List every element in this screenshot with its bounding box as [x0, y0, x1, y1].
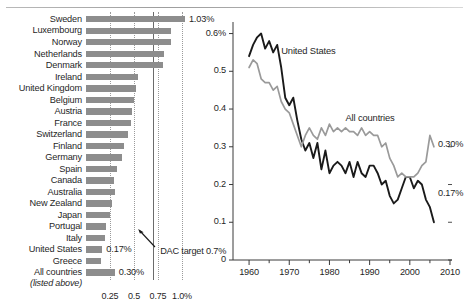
- bar-row-label: Belgium: [0, 96, 86, 106]
- bar-row-track: [86, 118, 200, 130]
- bar-row: Switzerland: [0, 129, 200, 141]
- bar-row-track: [86, 49, 200, 61]
- bar-fill: [86, 258, 101, 264]
- bar-fill: [86, 189, 115, 195]
- bar-fill: [86, 235, 105, 241]
- bar-value-label: 0.17%: [106, 245, 131, 255]
- end-value-united-states: 0.17%: [438, 189, 463, 199]
- line-chart-y-tick-label: 0.2: [200, 180, 226, 190]
- bar-row-label: Greece: [0, 257, 86, 267]
- bar-fill: [86, 85, 136, 91]
- line-series-all-countries: [249, 60, 434, 177]
- bar-row: Greece: [0, 256, 200, 268]
- series-label-united-states: United States: [281, 46, 335, 56]
- bar-row-track: [86, 164, 200, 176]
- bar-fill: [86, 223, 106, 229]
- bar-row-label: France: [0, 119, 86, 129]
- bar-row: Belgium: [0, 95, 200, 107]
- bar-row-track: [86, 37, 200, 49]
- bar-fill: [86, 269, 115, 275]
- bar-row-label: Germany: [0, 153, 86, 163]
- bar-row-track: [86, 256, 200, 268]
- bar-row-label: Norway: [0, 38, 86, 48]
- bar-fill: [86, 51, 164, 57]
- bar-row-label: Finland: [0, 142, 86, 152]
- bar-row-label: Switzerland: [0, 130, 86, 140]
- bar-row-label: Australia: [0, 188, 86, 198]
- series-label-all-countries: All countries: [346, 113, 395, 123]
- bar-row-track: [86, 60, 200, 72]
- line-chart-panel: United States All countries 0.30% 0.17% …: [200, 8, 469, 293]
- bar-row: Norway: [0, 37, 200, 49]
- bar-row: Netherlands: [0, 49, 200, 61]
- bar-fill: [86, 143, 124, 149]
- line-chart-y-tick-label: 0.3: [200, 142, 226, 152]
- bar-row-label: Japan: [0, 211, 86, 221]
- bar-row-track: [86, 72, 200, 84]
- bar-axis-tick: 1.0%: [172, 292, 192, 301]
- line-chart-y-tick-label: 0.1: [200, 217, 226, 227]
- bar-row: Spain: [0, 164, 200, 176]
- bar-row: Ireland: [0, 72, 200, 84]
- bar-chart-panel: Sweden1.03%LuxembourgNorwayNetherlandsDe…: [0, 12, 200, 287]
- bar-fill: [86, 200, 112, 206]
- bar-row-track: [86, 175, 200, 187]
- bar-axis-tick: 0.75: [150, 292, 167, 301]
- bar-fill: [86, 62, 163, 68]
- bar-fill: [86, 131, 128, 137]
- bar-row-track: [86, 83, 200, 95]
- bar-fill: [86, 97, 134, 103]
- bar-row-label: Spain: [0, 165, 86, 175]
- line-chart-x-tick-label: 2010: [440, 268, 460, 278]
- bar-chart-sub-label: (listed above): [0, 279, 86, 288]
- bar-row-label: Italy: [0, 234, 86, 244]
- line-chart-x-tick-label: 1970: [279, 268, 299, 278]
- line-chart-x-tick-label: 2000: [400, 268, 420, 278]
- line-chart-x-tick-label: 1990: [360, 268, 380, 278]
- bar-fill: [86, 28, 171, 34]
- bar-row-track: [86, 187, 200, 199]
- bar-row: New Zealand: [0, 198, 200, 210]
- bar-fill: [86, 39, 171, 45]
- bar-row: Sweden1.03%: [0, 14, 200, 26]
- bar-axis-tick: 0.25: [102, 292, 119, 301]
- bar-row-label: United States: [0, 245, 86, 255]
- bar-row-track: 0.30%: [86, 267, 200, 279]
- bar-row: Australia: [0, 187, 200, 199]
- bar-fill: [86, 120, 131, 126]
- bar-row-label: Netherlands: [0, 50, 86, 60]
- bar-row-track: [86, 210, 200, 222]
- bar-row-label: New Zealand: [0, 199, 86, 209]
- bar-row-track: [86, 129, 200, 141]
- line-chart-y-tick-label: 0.5: [200, 66, 226, 76]
- bar-fill: [86, 74, 138, 80]
- bar-row: Portugal: [0, 221, 200, 233]
- bar-row: Germany: [0, 152, 200, 164]
- line-chart-axes: [233, 22, 452, 260]
- bar-value-label: 0.30%: [119, 268, 144, 278]
- bar-fill: [86, 212, 110, 218]
- bar-row-label: Sweden: [0, 15, 86, 25]
- bar-row-label: United Kingdom: [0, 84, 86, 94]
- bar-row-label: Denmark: [0, 61, 86, 71]
- bar-row-track: [86, 106, 200, 118]
- bar-row: Japan: [0, 210, 200, 222]
- bar-row-track: 1.03%: [86, 14, 200, 26]
- bar-row-label: Portugal: [0, 222, 86, 232]
- bar-row: Finland: [0, 141, 200, 153]
- bar-chart-x-axis: 0.250.50.751.0%: [86, 292, 200, 303]
- line-chart-y-tick-label: 0: [200, 255, 226, 265]
- bar-row: Canada: [0, 175, 200, 187]
- bar-row: United Kingdom: [0, 83, 200, 95]
- bar-fill: [86, 16, 185, 22]
- dac-target-arrow-icon: [135, 228, 157, 248]
- bar-row-track: [86, 95, 200, 107]
- bar-row-label: Luxembourg: [0, 26, 86, 36]
- end-value-all-countries: 0.30%: [438, 140, 463, 150]
- bar-row: Denmark: [0, 60, 200, 72]
- line-chart-y-tick-label: 0.6%: [200, 29, 226, 39]
- bar-fill: [86, 246, 102, 252]
- bar-fill: [86, 154, 122, 160]
- bar-row: France: [0, 118, 200, 130]
